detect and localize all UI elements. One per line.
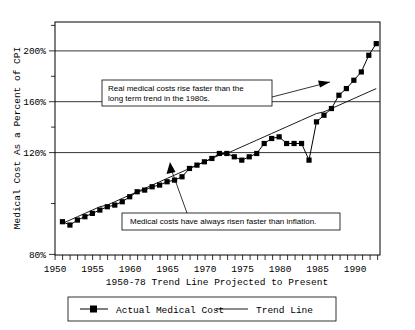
data-point-marker	[179, 174, 184, 179]
x-axis-title: 1950-78 Trend Line Projected to Present	[106, 277, 328, 288]
legend-label-trend: Trend Line	[256, 305, 313, 316]
data-point-marker	[75, 217, 80, 222]
x-tick-label-1960: 1960	[119, 264, 142, 275]
annotation-inflation-line1: Medical costs have always risen faster t…	[130, 217, 316, 226]
data-point-marker	[291, 141, 296, 146]
x-tick-label-1985: 1985	[306, 264, 329, 275]
legend-swatch-actual-marker	[90, 306, 97, 313]
x-axis-minor-ticks	[55, 255, 378, 260]
data-point-marker	[150, 184, 155, 189]
data-point-marker	[157, 183, 162, 188]
data-point-marker	[90, 211, 95, 216]
x-tick-label-1950: 1950	[44, 264, 67, 275]
data-point-marker	[306, 158, 311, 163]
data-point-marker	[254, 151, 259, 156]
data-point-marker	[60, 219, 65, 224]
data-point-marker	[269, 136, 274, 141]
data-point-marker	[239, 158, 244, 163]
data-point-marker	[164, 179, 169, 184]
legend-label-actual: Actual Medical Cost	[116, 305, 224, 316]
x-tick-label-1980: 1980	[269, 264, 292, 275]
data-point-marker	[209, 156, 214, 161]
data-point-marker	[127, 194, 132, 199]
data-point-marker	[232, 154, 237, 159]
data-point-marker	[359, 69, 364, 74]
data-point-marker	[217, 151, 222, 156]
x-tick-label-1990: 1990	[344, 264, 367, 275]
data-point-marker	[299, 141, 304, 146]
annotation-1980s-line2: long term trend in the 1980s.	[108, 94, 210, 103]
chart-figure: 80% 120% 160% 200% Medical Cost As a Per…	[0, 0, 415, 330]
legend: Actual Medical Cost Trend Line	[68, 297, 336, 321]
data-point-marker	[187, 166, 192, 171]
data-point-marker	[135, 189, 140, 194]
data-point-marker	[336, 93, 341, 98]
annotation-1980s-line1: Real medical costs rise faster than the	[108, 84, 244, 93]
data-point-marker	[329, 106, 334, 111]
y-tick-label-120: 120%	[23, 148, 46, 159]
y-tick-label-160: 160%	[23, 97, 46, 108]
data-point-marker	[374, 41, 379, 46]
data-point-marker	[321, 113, 326, 118]
data-point-marker	[112, 202, 117, 207]
data-point-marker	[224, 151, 229, 156]
data-point-marker	[142, 187, 147, 192]
x-tick-label-1965: 1965	[156, 264, 179, 275]
data-point-marker	[284, 141, 289, 146]
data-point-marker	[97, 207, 102, 212]
data-point-marker	[194, 163, 199, 168]
x-tick-label-1970: 1970	[194, 264, 217, 275]
y-tick-label-200: 200%	[23, 46, 46, 57]
data-point-marker	[247, 154, 252, 159]
data-point-marker	[277, 134, 282, 139]
x-tick-label-1975: 1975	[231, 264, 254, 275]
chart-svg: 80% 120% 160% 200% Medical Cost As a Per…	[0, 0, 415, 330]
data-point-marker	[262, 141, 267, 146]
data-point-marker	[67, 222, 72, 227]
data-point-marker	[344, 86, 349, 91]
data-point-marker	[366, 53, 371, 58]
data-point-marker	[202, 159, 207, 164]
data-point-marker	[82, 214, 87, 219]
data-point-marker	[120, 199, 125, 204]
data-point-marker	[314, 119, 319, 124]
y-tick-label-80: 80%	[29, 250, 46, 261]
y-axis-ticks	[49, 25, 55, 254]
y-axis-title: Medical Cost As a Percent of CPI	[12, 47, 23, 229]
x-tick-label-1955: 1955	[81, 264, 104, 275]
data-point-marker	[351, 78, 356, 83]
data-point-marker	[105, 204, 110, 209]
